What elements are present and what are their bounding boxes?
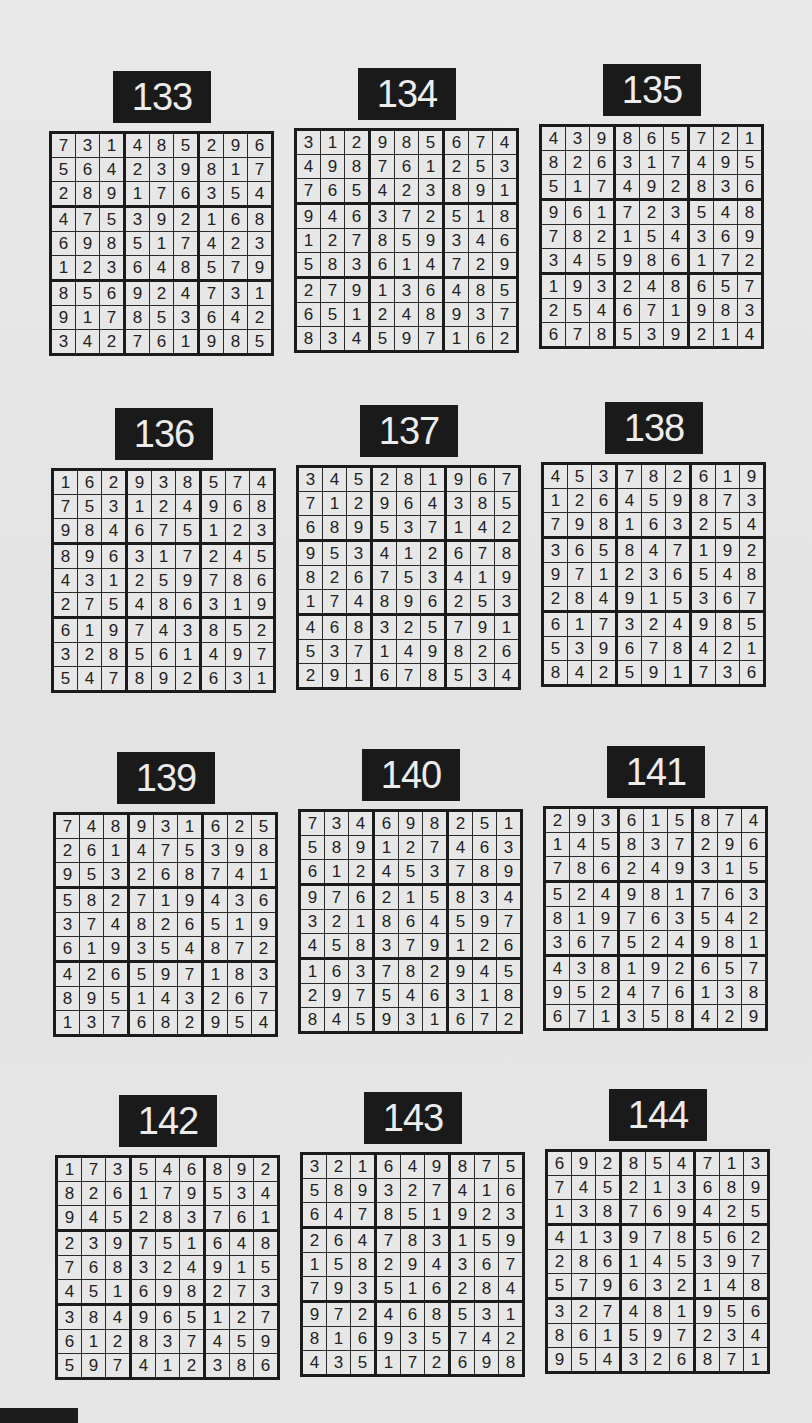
grid-row: 321864597 (300, 910, 522, 934)
grid-row: 961723548 (541, 200, 763, 225)
grid-row: 647851923 (302, 1203, 524, 1228)
grid-cell: 9 (323, 664, 347, 689)
grid-cell: 6 (176, 593, 201, 618)
grid-cell: 9 (351, 1179, 376, 1203)
grid-cell: 5 (226, 618, 250, 643)
grid-row: 953268741 (55, 863, 277, 888)
grid-cell: 6 (349, 885, 374, 910)
grid-cell: 1 (590, 200, 615, 225)
grid-row: 539678421 (543, 637, 765, 661)
grid-cell: 6 (226, 495, 250, 519)
grid-row: 819763542 (545, 907, 767, 931)
grid-row: 431259786 (53, 569, 275, 593)
grid-cell: 4 (619, 981, 644, 1005)
grid-cell: 1 (570, 907, 594, 931)
grid-cell: 8 (646, 1299, 670, 1324)
grid-cell: 5 (740, 612, 765, 637)
grid-cell: 6 (423, 984, 448, 1008)
grid-cell: 7 (125, 330, 150, 355)
grid-cell: 3 (150, 158, 174, 182)
grid-cell: 6 (499, 1179, 524, 1203)
grid-cell: 3 (689, 225, 714, 249)
grid-cell: 5 (568, 464, 592, 489)
grid-cell: 7 (469, 130, 493, 155)
grid-cell: 6 (744, 1299, 769, 1324)
grid-cell: 2 (76, 256, 100, 281)
grid-row: 748931625 (55, 814, 277, 839)
grid-cell: 4 (691, 637, 716, 661)
grid-cell: 5 (53, 667, 78, 692)
grid-cell: 8 (497, 984, 522, 1008)
grid-cell: 8 (744, 1274, 769, 1299)
grid-row: 163782945 (300, 959, 522, 984)
grid-cell: 7 (401, 1351, 425, 1376)
grid-cell: 7 (568, 563, 592, 587)
grid-cell: 6 (716, 587, 740, 612)
grid-cell: 4 (590, 299, 615, 323)
grid-cell: 2 (499, 1327, 524, 1351)
grid-cell: 1 (372, 640, 397, 664)
grid-cell: 6 (570, 931, 594, 956)
grid-cell: 7 (80, 913, 104, 937)
grid-cell: 9 (152, 667, 176, 692)
grid-cell: 9 (718, 833, 742, 857)
grid-cell: 5 (325, 934, 349, 959)
grid-cell: 8 (493, 204, 518, 229)
grid-row: 174896253 (298, 590, 520, 615)
sudoku-grid: 2936158741458372967862493155249817638197… (543, 806, 768, 1031)
grid-row: 126459873 (543, 489, 765, 513)
grid-cell: 8 (691, 489, 716, 513)
grid-cell: 9 (57, 1206, 82, 1231)
grid-cell: 5 (594, 833, 619, 857)
grid-cell: 6 (252, 888, 277, 913)
grid-cell: 5 (302, 1179, 327, 1203)
grid-cell: 4 (570, 833, 594, 857)
grid-cell: 2 (374, 885, 399, 910)
grid-cell: 8 (642, 464, 666, 489)
grid-row: 826179534 (57, 1182, 279, 1206)
grid-row: 275486319 (53, 593, 275, 618)
grid-cell: 8 (176, 470, 201, 495)
grid-cell: 3 (374, 934, 399, 959)
grid-cell: 1 (621, 1250, 646, 1274)
grid-cell: 8 (596, 1200, 621, 1225)
grid-cell: 9 (82, 1354, 106, 1379)
grid-cell: 3 (174, 306, 199, 330)
grid-cell: 3 (201, 593, 226, 618)
grid-cell: 3 (419, 179, 444, 204)
grid-cell: 6 (664, 249, 689, 274)
grid-cell: 1 (51, 256, 76, 281)
grid-cell: 4 (374, 860, 399, 885)
grid-cell: 5 (106, 1206, 131, 1231)
grid-row: 678539214 (541, 323, 763, 348)
grid-cell: 4 (76, 330, 100, 355)
grid-cell: 1 (156, 1354, 180, 1379)
grid-cell: 5 (619, 931, 644, 956)
grid-cell: 7 (150, 182, 174, 207)
grid-cell: 9 (568, 513, 592, 538)
grid-cell: 1 (395, 253, 419, 278)
grid-cell: 2 (224, 232, 248, 256)
grid-cell: 8 (547, 1324, 572, 1348)
grid-cell: 4 (351, 1228, 376, 1253)
grid-cell: 5 (131, 1157, 156, 1182)
grid-cell: 2 (347, 492, 372, 516)
grid-cell: 4 (347, 590, 372, 615)
grid-cell: 5 (102, 593, 127, 618)
grid-cell: 2 (668, 956, 693, 981)
grid-cell: 5 (129, 962, 154, 987)
grid-cell: 2 (419, 204, 444, 229)
grid-cell: 1 (596, 1324, 621, 1348)
grid-cell: 3 (76, 133, 100, 158)
grid-cell: 1 (738, 126, 763, 151)
grid-cell: 4 (300, 934, 325, 959)
grid-cell: 2 (543, 587, 568, 612)
grid-cell: 9 (102, 618, 127, 643)
grid-cell: 9 (395, 327, 419, 352)
grid-cell: 7 (252, 987, 277, 1011)
grid-cell: 4 (82, 1206, 106, 1231)
grid-cell: 8 (446, 640, 471, 664)
grid-cell: 8 (716, 612, 740, 637)
grid-cell: 8 (351, 1253, 376, 1277)
grid-cell: 2 (125, 158, 150, 182)
